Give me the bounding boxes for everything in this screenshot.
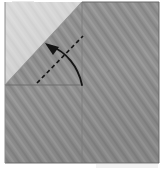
origami-figure: Origami fold step diagram <box>0 0 165 171</box>
bottom-right-scan-mark <box>96 164 158 168</box>
origami-diagram-canvas: Origami fold step diagram <box>0 0 165 171</box>
